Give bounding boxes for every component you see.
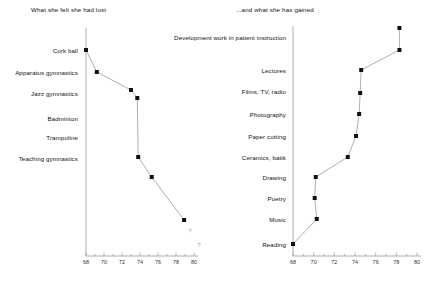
gained-data-point-2[interactable] [359,68,363,72]
gained-category-label-2: Films, TV, radio [0,88,286,95]
gained-data-point-3[interactable] [358,91,362,95]
gained-data-point-1[interactable] [397,48,401,52]
lost-data-point-0[interactable] [84,48,88,52]
gained-category-label-0: Development work in patient instruction [0,34,286,41]
gained-data-point-7[interactable] [314,175,318,179]
figure-container: What she felt she had lost ...and what s… [0,0,446,281]
gained-data-point-4[interactable] [357,112,361,116]
gained-tick-label-80: 80 [409,259,425,265]
lost-tick-label-76: 76 [150,259,166,265]
gained-data-point-6[interactable] [346,155,350,159]
lost-uncertainty-mark-1: ? [197,242,200,248]
lost-tick-label-70: 70 [96,259,112,265]
gained-tick-label-76: 76 [368,259,384,265]
lost-data-point-3[interactable] [135,96,139,100]
lost-tick-label-78: 78 [168,259,184,265]
gained-category-label-1: Lectures [0,67,286,74]
gained-tick-label-70: 70 [306,259,322,265]
gained-data-point-5[interactable] [354,134,358,138]
gained-data-point-9[interactable] [315,217,319,221]
gained-tick-label-74: 74 [347,259,363,265]
lost-tick-label-80: 80 [186,259,202,265]
gained-tick-label-68: 68 [285,259,301,265]
gained-category-label-9: Reading [0,241,286,248]
gained-category-label-4: Paper cutting [0,133,286,140]
gained-category-label-7: Poetry [0,195,286,202]
gained-category-label-5: Ceramics, batik [0,154,286,161]
lost-uncertainty-mark-0: ? [188,228,191,234]
lost-tick-label-68: 68 [78,259,94,265]
gained-data-point-8[interactable] [313,196,317,200]
gained-data-point-0[interactable] [397,26,401,30]
gained-tick-label-78: 78 [388,259,404,265]
gained-data-point-10[interactable] [291,242,295,246]
lost-category-label-0: Cork ball [0,47,78,54]
gained-category-label-6: Drawing [0,174,286,181]
gained-series-line [293,28,399,244]
lost-tick-label-74: 74 [132,259,148,265]
gained-category-label-3: Photography [0,111,286,118]
gained-tick-label-72: 72 [326,259,342,265]
lost-tick-label-72: 72 [114,259,130,265]
gained-category-label-8: Music [0,216,286,223]
